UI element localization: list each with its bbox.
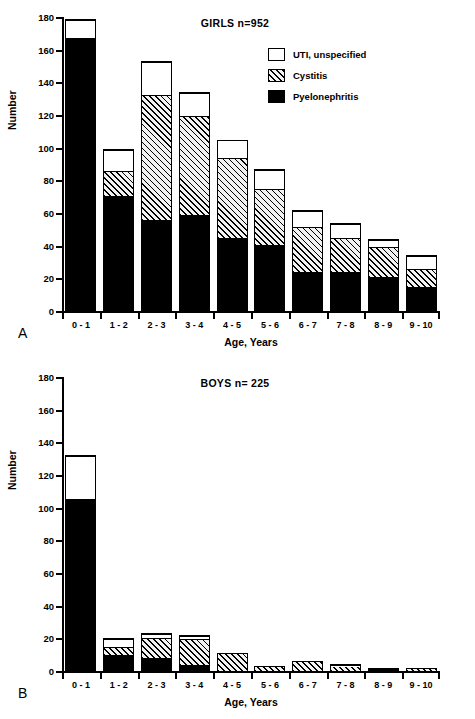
segment-cystitis xyxy=(104,647,133,655)
stacked-bar[interactable] xyxy=(368,668,399,671)
segment-uti-unspecified xyxy=(104,639,133,647)
segment-pyelonephritis xyxy=(104,196,133,311)
segment-pyelonephritis xyxy=(180,215,209,311)
segment-pyelonephritis xyxy=(142,220,171,311)
legend-girls: UTI, unspecifiedCystitisPyelonephritis xyxy=(268,44,366,107)
stacked-bar[interactable] xyxy=(65,455,96,671)
stacked-bar[interactable] xyxy=(254,169,285,311)
segment-pyelonephritis xyxy=(331,272,360,311)
stacked-bar[interactable] xyxy=(141,61,172,311)
segment-pyelonephritis xyxy=(66,499,95,671)
segment-cystitis xyxy=(331,667,360,671)
bar-slot-4-5 xyxy=(213,17,251,311)
segment-cystitis xyxy=(180,116,209,215)
y-tick-label-80: 80 xyxy=(14,176,54,186)
stacked-bar[interactable] xyxy=(254,666,285,671)
bar-slot-1-2 xyxy=(100,377,138,671)
stacked-bar[interactable] xyxy=(330,664,361,671)
stacked-bar[interactable] xyxy=(103,149,134,311)
stacked-bar[interactable] xyxy=(217,653,248,671)
segment-pyelonephritis xyxy=(369,669,398,671)
bar-slot-3-4 xyxy=(175,377,213,671)
chart-panel-girls: Number GIRLS n=952 020406080100120140160… xyxy=(0,0,475,359)
segment-cystitis xyxy=(218,654,247,671)
segment-pyelonephritis xyxy=(369,277,398,311)
segment-uti-unspecified xyxy=(218,140,247,158)
x-axis-label: 5 - 6 xyxy=(251,677,289,693)
x-axis-label: 3 - 4 xyxy=(175,317,213,333)
segment-uti-unspecified xyxy=(66,20,95,38)
segment-cystitis xyxy=(218,158,247,238)
white-square-icon xyxy=(268,48,285,61)
stacked-bar[interactable] xyxy=(179,635,210,671)
segment-uti-unspecified xyxy=(142,62,171,95)
stacked-bar[interactable] xyxy=(406,668,437,671)
x-axis-labels-b: 0 - 11 - 22 - 33 - 44 - 55 - 66 - 77 - 8… xyxy=(62,677,440,693)
stacked-bar[interactable] xyxy=(292,661,323,671)
segment-pyelonephritis xyxy=(142,658,171,671)
x-axis-label: 6 - 7 xyxy=(289,677,327,693)
x-axis-label: 7 - 8 xyxy=(327,677,365,693)
segment-pyelonephritis xyxy=(104,655,133,671)
bar-slot-6-7 xyxy=(289,377,327,671)
segment-cystitis xyxy=(180,639,209,664)
bar-slot-2-3 xyxy=(138,17,176,311)
segment-uti-unspecified xyxy=(407,256,436,269)
y-tick-label-180: 180 xyxy=(14,373,54,383)
segment-uti-unspecified xyxy=(104,150,133,171)
segment-cystitis xyxy=(407,269,436,287)
panel-letter-a: A xyxy=(18,325,27,341)
stacked-bar[interactable] xyxy=(330,223,361,311)
stacked-bar[interactable] xyxy=(103,638,134,671)
plot-area-girls: 020406080100120140160180 0 - 11 - 22 - 3… xyxy=(62,17,440,313)
segment-pyelonephritis xyxy=(218,238,247,311)
y-tick-label-20: 20 xyxy=(14,634,54,644)
x-axis-label: 9 - 10 xyxy=(402,317,440,333)
panel-letter-b: B xyxy=(18,685,27,701)
legend-label: Pyelonephritis xyxy=(293,91,358,102)
x-axis-label: 0 - 1 xyxy=(62,317,100,333)
stacked-bar[interactable] xyxy=(179,92,210,311)
stacked-bar[interactable] xyxy=(368,239,399,311)
x-axis-label: 6 - 7 xyxy=(289,317,327,333)
segment-pyelonephritis xyxy=(293,272,322,311)
x-axis-labels-a: 0 - 11 - 22 - 33 - 44 - 55 - 66 - 77 - 8… xyxy=(62,317,440,333)
bar-slot-4-5 xyxy=(213,377,251,671)
y-tick-label-180: 180 xyxy=(14,13,54,23)
legend-item: Pyelonephritis xyxy=(268,86,366,107)
segment-cystitis xyxy=(331,238,360,272)
y-tick-label-60: 60 xyxy=(14,209,54,219)
segment-uti-unspecified xyxy=(293,211,322,227)
bar-slot-8-9 xyxy=(364,377,402,671)
stacked-bar[interactable] xyxy=(292,210,323,311)
segment-pyelonephritis xyxy=(66,38,95,311)
stacked-bar[interactable] xyxy=(141,633,172,671)
y-tick-label-140: 140 xyxy=(14,438,54,448)
segment-cystitis xyxy=(407,669,436,671)
segment-uti-unspecified xyxy=(66,456,95,498)
segment-cystitis xyxy=(255,189,284,244)
segment-pyelonephritis xyxy=(255,245,284,311)
bar-slot-3-4 xyxy=(175,17,213,311)
segment-cystitis xyxy=(255,667,284,671)
y-tick-label-0: 0 xyxy=(14,667,54,677)
segment-uti-unspecified xyxy=(331,224,360,239)
y-tick-label-0: 0 xyxy=(14,307,54,317)
black-square-icon xyxy=(268,90,285,103)
y-tick-label-40: 40 xyxy=(14,601,54,611)
x-axis-title-b: Age, Years xyxy=(62,696,440,708)
x-axis-label: 0 - 1 xyxy=(62,677,100,693)
chart-panel-boys: Number BOYS n= 225 020406080100120140160… xyxy=(0,360,475,719)
segment-uti-unspecified xyxy=(255,170,284,189)
segment-cystitis xyxy=(104,171,133,195)
y-tick-label-100: 100 xyxy=(14,503,54,513)
bar-slot-5-6 xyxy=(251,377,289,671)
hatched-square-icon xyxy=(268,69,285,82)
x-axis-label: 7 - 8 xyxy=(327,317,365,333)
stacked-bar[interactable] xyxy=(217,140,248,312)
bar-group-boys xyxy=(62,377,440,671)
stacked-bar[interactable] xyxy=(65,19,96,311)
stacked-bar[interactable] xyxy=(406,255,437,311)
x-axis-label: 9 - 10 xyxy=(402,677,440,693)
legend-item: UTI, unspecified xyxy=(268,44,366,65)
